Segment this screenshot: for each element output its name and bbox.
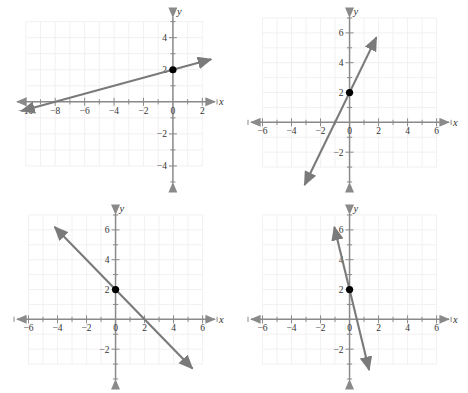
grid-lines (26, 22, 203, 166)
graph-panel-top-right: −6−4−20246642−2xy (234, 0, 468, 196)
x-tick-label: −6 (257, 126, 267, 136)
x-tick-label: 0 (113, 323, 118, 333)
y-tick-label: 2 (339, 285, 344, 295)
graph-panel-bottom-left: −6−4−20246642−2xy (0, 197, 234, 393)
y-tick-label: 4 (105, 255, 110, 265)
x-tick-label: −6 (80, 106, 90, 116)
graph-figure-board: −10−8−6−4−20242−2−4xy −6−4−20246642−2xy … (0, 0, 468, 393)
x-axis-label: x (452, 117, 458, 128)
y-tick-label: −2 (333, 148, 343, 158)
x-tick-label: −2 (315, 126, 325, 136)
x-tick-label: −8 (50, 106, 60, 116)
x-tick-label: 2 (376, 126, 381, 136)
x-tick-label: 6 (434, 323, 439, 333)
y-tick-label: −2 (333, 345, 343, 355)
plotted-line (21, 59, 211, 111)
plotted-point (346, 286, 353, 293)
y-tick-label: 6 (339, 28, 344, 38)
x-tick-label: −4 (52, 323, 62, 333)
plotted-line (55, 227, 193, 369)
x-tick-label: 2 (200, 106, 205, 116)
graph-panel-top-left: −10−8−6−4−20242−2−4xy (0, 0, 234, 196)
y-axis-label: y (176, 6, 182, 17)
plotted-point (346, 89, 353, 96)
graph-panel-bottom-right: −6−4−20246642−2xy (234, 197, 468, 393)
x-tick-label: 0 (171, 106, 176, 116)
x-tick-label: 6 (200, 323, 205, 333)
x-tick-label: −2 (81, 323, 91, 333)
y-tick-label: −4 (157, 161, 167, 171)
x-tick-label: −4 (109, 106, 119, 116)
y-tick-label: −2 (99, 345, 109, 355)
x-tick-label: 2 (142, 323, 147, 333)
x-tick-label: −6 (23, 323, 33, 333)
x-tick-label: −2 (138, 106, 148, 116)
plotted-point (112, 286, 119, 293)
x-tick-label: 0 (347, 323, 352, 333)
x-tick-label: −2 (315, 323, 325, 333)
y-axis-label: y (353, 203, 359, 214)
x-tick-label: −4 (286, 126, 296, 136)
y-tick-label: 2 (105, 285, 110, 295)
x-axis-label: x (218, 96, 224, 107)
x-tick-label: −4 (286, 323, 296, 333)
x-tick-label: 6 (434, 126, 439, 136)
y-tick-label: 4 (162, 33, 167, 43)
y-tick-label: 4 (339, 58, 344, 68)
y-axis-label: y (119, 203, 125, 214)
plotted-point (169, 66, 176, 73)
y-tick-label: 2 (162, 65, 167, 75)
y-axis-label: y (353, 6, 359, 17)
x-tick-label: 4 (171, 323, 176, 333)
x-tick-label: −6 (257, 323, 267, 333)
x-tick-label: 4 (405, 126, 410, 136)
x-tick-label: 0 (347, 126, 352, 136)
y-tick-label: 2 (339, 88, 344, 98)
x-tick-label: 2 (376, 323, 381, 333)
y-tick-label: 6 (339, 225, 344, 235)
y-tick-label: −2 (157, 129, 167, 139)
x-axis-label: x (218, 314, 224, 325)
y-tick-label: 6 (105, 225, 110, 235)
x-axis-label: x (452, 314, 458, 325)
x-tick-label: 4 (405, 323, 410, 333)
